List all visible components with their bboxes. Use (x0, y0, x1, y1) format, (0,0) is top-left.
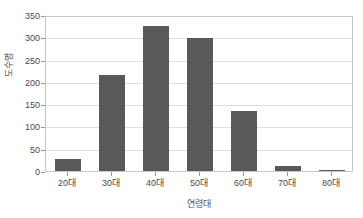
bar[interactable] (319, 170, 345, 171)
y-axis-tick-mark (41, 127, 45, 128)
bar-slot (46, 17, 90, 171)
y-axis-tick-mark (41, 16, 45, 17)
y-axis-tick-label: 50 (14, 146, 40, 155)
y-axis-tick-label: 150 (14, 101, 40, 110)
bar[interactable] (55, 159, 81, 171)
y-axis-tick-mark (41, 38, 45, 39)
x-axis-tick-mark (199, 172, 200, 176)
x-axis-tick-mark (331, 172, 332, 176)
y-axis-tick-label: 100 (14, 123, 40, 132)
y-axis-tick-mark (41, 83, 45, 84)
x-axis-tick-mark (243, 172, 244, 176)
x-axis-tick-mark (287, 172, 288, 176)
y-axis-tick-mark (41, 172, 45, 173)
x-axis-tick-mark (111, 172, 112, 176)
x-axis-tick-label: 40대 (133, 178, 177, 189)
x-axis-tick-label: 50대 (177, 178, 221, 189)
y-axis-tick-label: 300 (14, 34, 40, 43)
x-axis-tick-label: 80대 (309, 178, 353, 189)
y-axis-tick-mark (41, 61, 45, 62)
y-axis-tick-mark (41, 150, 45, 151)
bar-slot (310, 17, 354, 171)
x-axis-tick-label: 60대 (221, 178, 265, 189)
bar-slot (178, 17, 222, 171)
bar-slot (134, 17, 178, 171)
bar[interactable] (187, 38, 213, 171)
bar-slot (266, 17, 310, 171)
x-axis-tick-mark (155, 172, 156, 176)
bar[interactable] (275, 166, 301, 171)
bar[interactable] (143, 26, 169, 171)
x-axis-tick-labels: 20대30대40대50대60대70대80대 (45, 178, 353, 192)
y-axis-title: 도수명 (2, 35, 15, 95)
plot-area (45, 16, 353, 172)
bar-chart: 도수명 050100150200250300350 20대30대40대50대60… (0, 0, 363, 218)
x-axis-title: 연령대 (45, 197, 353, 210)
bars-layer (46, 17, 352, 171)
y-axis-tick-label: 350 (14, 12, 40, 21)
y-axis-tick-labels: 050100150200250300350 (14, 16, 40, 172)
x-axis-tick-mark (67, 172, 68, 176)
y-axis-tick-label: 0 (14, 168, 40, 177)
x-axis-tick-label: 30대 (89, 178, 133, 189)
bar[interactable] (99, 75, 125, 171)
bar[interactable] (231, 111, 257, 171)
x-axis-tick-label: 20대 (45, 178, 89, 189)
y-axis-tick-label: 200 (14, 79, 40, 88)
y-axis-tick-label: 250 (14, 57, 40, 66)
y-axis-tick-mark (41, 105, 45, 106)
x-axis-tick-label: 70대 (265, 178, 309, 189)
bar-slot (90, 17, 134, 171)
bar-slot (222, 17, 266, 171)
